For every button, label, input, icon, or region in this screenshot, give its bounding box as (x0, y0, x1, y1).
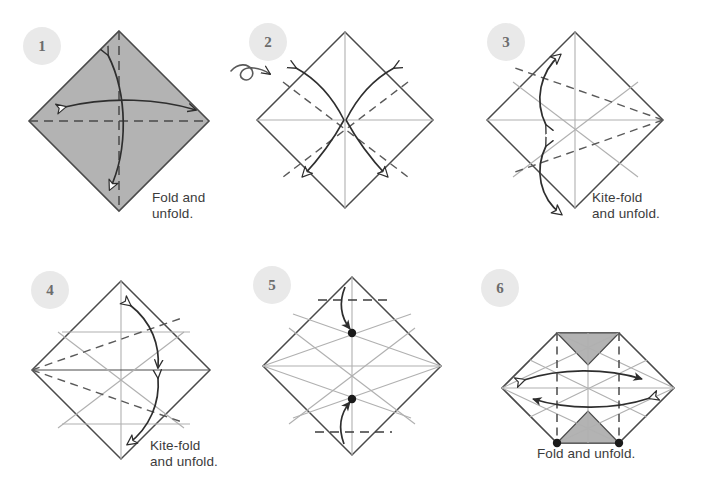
step-1-badge (23, 27, 61, 65)
step-6-figure (481, 269, 674, 447)
step-3-figure (487, 23, 663, 214)
step-2-badge (249, 23, 287, 61)
step-5-badge (253, 266, 291, 304)
step-4-badge (31, 271, 69, 309)
step-5-figure (253, 266, 441, 455)
reference-dot-bottom (348, 395, 356, 403)
step-1-figure (23, 27, 209, 211)
turn-over-arrow-icon (231, 65, 270, 80)
reference-dot-top (348, 329, 356, 337)
step-6-badge (481, 269, 519, 307)
origami-diagram-sheet (0, 0, 702, 487)
step-2-figure (249, 23, 433, 208)
step-6-caption: Fold and unfold. (537, 446, 635, 462)
step-4-caption: Kite-fold and unfold. (150, 438, 218, 470)
step-1-caption: Fold and unfold. (152, 190, 205, 222)
step-3-badge (487, 23, 525, 61)
step-3-caption: Kite-fold and unfold. (592, 190, 660, 222)
step-4-figure (31, 271, 210, 459)
